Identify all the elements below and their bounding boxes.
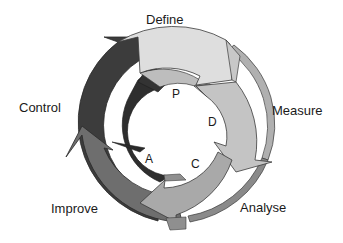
label-plan: P: [172, 87, 180, 101]
label-control: Control: [19, 100, 61, 115]
label-check: C: [191, 157, 200, 171]
label-define: Define: [146, 12, 184, 27]
label-improve: Improve: [51, 201, 98, 216]
label-analyse: Analyse: [240, 200, 286, 215]
label-act: A: [145, 152, 153, 166]
dmaic-pdca-diagram: Define Measure Analyse Improve Control P…: [0, 0, 343, 243]
label-do: D: [208, 115, 217, 129]
label-measure: Measure: [272, 103, 323, 118]
